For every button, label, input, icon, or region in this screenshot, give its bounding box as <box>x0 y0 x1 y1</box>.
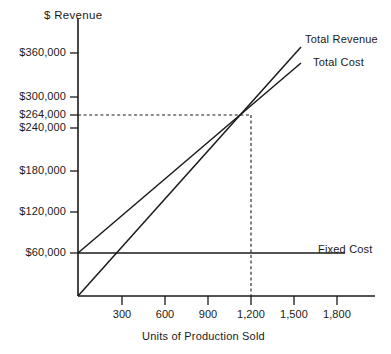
series-line-total-revenue <box>78 47 301 296</box>
y-axis-label-240000: $240,000 <box>0 121 66 133</box>
y-axis-label-180000: $180,000 <box>0 164 66 176</box>
y-axis-label-264000: $264,000 <box>0 108 66 120</box>
x-axis-title: Units of Production Sold <box>0 330 391 342</box>
y-axis-label-300000: $300,000 <box>0 90 66 102</box>
break-even-chart: $ Revenue <box>0 0 391 354</box>
y-axis-ticks <box>70 53 78 253</box>
x-axis-ticks <box>122 296 337 305</box>
x-axis-title-text: Units of Production Sold <box>142 330 265 342</box>
series-label-fixed-cost: Fixed Cost <box>318 243 373 255</box>
y-axis-label-60000: $60,000 <box>0 246 66 258</box>
y-axis-label-120000: $120,000 <box>0 205 66 217</box>
series-label-total-cost: Total Cost <box>313 56 364 68</box>
y-axis-label-360000: $360,000 <box>0 46 66 58</box>
series-label-total-revenue: Total Revenue <box>305 33 378 45</box>
x-axis-label-1800: 1,800 <box>311 308 363 320</box>
series-line-total-cost <box>78 63 301 253</box>
